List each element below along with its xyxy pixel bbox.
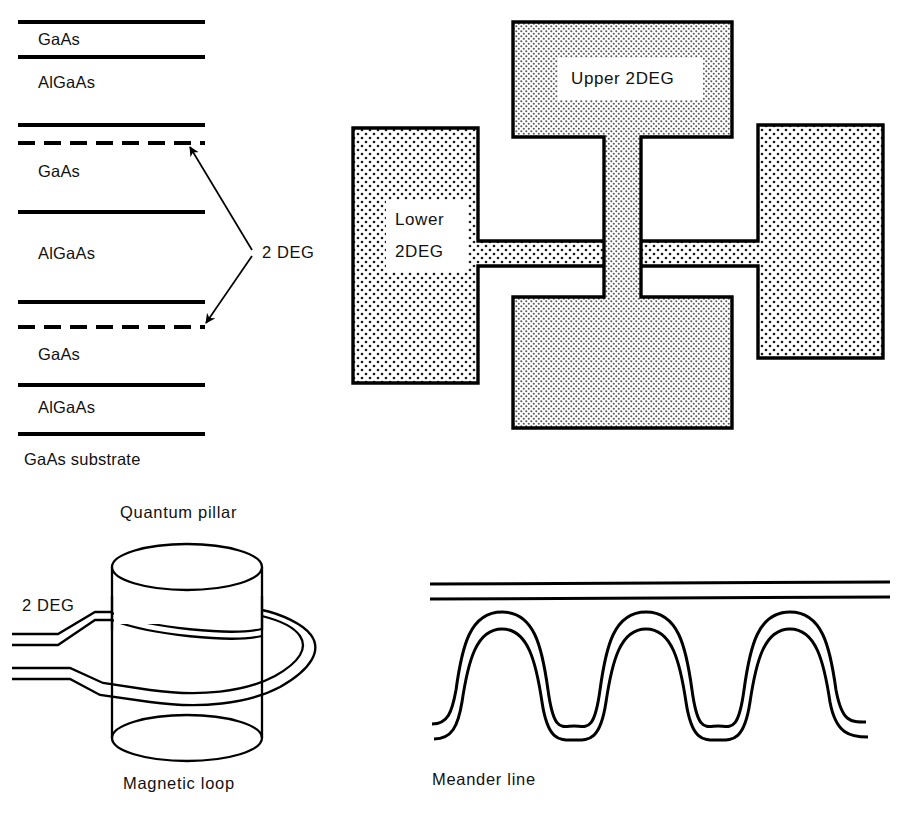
lower-2deg-label-line2: 2DEG xyxy=(395,243,444,260)
quantum-pillar-title: Quantum pillar xyxy=(120,504,237,521)
layer-label-gaas-2: GaAs xyxy=(38,163,80,180)
figure-vector-layer xyxy=(0,0,900,820)
meander-inner-edge xyxy=(434,629,868,740)
callout-arrow-to-lower-interface xyxy=(206,256,252,323)
pillar-bottom-ellipse xyxy=(112,715,262,761)
meander-straight-line-bottom xyxy=(430,597,890,599)
meander-straight-line-top xyxy=(430,582,890,584)
layer-label-algaas-3: AlGaAs xyxy=(38,399,95,416)
meander-group xyxy=(430,582,890,740)
lead-lower-bottom-edge xyxy=(12,679,150,702)
two-deg-callout-arrows xyxy=(190,147,252,323)
lower-2deg-label-line1: Lower xyxy=(395,211,444,228)
lead-upper-top-edge xyxy=(12,612,112,634)
two-deg-callout-label: 2 DEG xyxy=(262,244,315,261)
pillar-top-ellipse xyxy=(112,544,262,590)
layer-label-gaas-3: GaAs xyxy=(38,346,80,363)
layer-label-algaas-2: AlGaAs xyxy=(38,245,95,262)
pillar-occlusion-patch xyxy=(114,600,260,624)
magnetic-loop-caption: Magnetic loop xyxy=(123,775,235,792)
pillar-two-deg-lead-label: 2 DEG xyxy=(22,597,75,614)
layer-label-gaas-1: GaAs xyxy=(38,31,80,48)
upper-2deg-label: Upper 2DEG xyxy=(571,70,674,87)
meander-line-caption: Meander line xyxy=(432,771,536,788)
figure-canvas: GaAs AlGaAs GaAs AlGaAs GaAs AlGaAs GaAs… xyxy=(0,0,900,820)
layer-label-algaas-1: AlGaAs xyxy=(38,74,95,91)
layer-label-substrate: GaAs substrate xyxy=(24,451,141,468)
callout-arrow-to-upper-interface xyxy=(190,147,252,250)
quantum-pillar-group xyxy=(12,544,315,761)
